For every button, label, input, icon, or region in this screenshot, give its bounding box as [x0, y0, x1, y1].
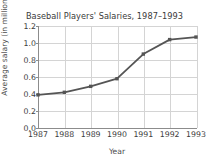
chart-title: Baseball Players' Salaries, 1987–1993 — [0, 11, 209, 21]
data-point-marker — [36, 93, 39, 96]
data-point-marker — [194, 35, 197, 38]
data-point-marker — [63, 91, 66, 94]
data-point-marker — [168, 38, 171, 41]
data-point-marker — [115, 77, 118, 80]
series-line-average-salary — [38, 37, 196, 95]
x-tick-label: 1988 — [54, 130, 74, 139]
data-point-marker — [89, 85, 92, 88]
x-axis-label: Year — [38, 147, 196, 156]
y-tick-label: 1.0 — [2, 39, 36, 48]
x-tick-label: 1993 — [186, 130, 206, 139]
y-tick-label: 0.4 — [2, 90, 36, 99]
x-tick-label: 1990 — [107, 130, 127, 139]
y-tick-label: 1.2 — [2, 22, 36, 31]
x-tick-label: 1992 — [160, 130, 180, 139]
x-tick-label: 1991 — [133, 130, 153, 139]
y-tick-label: 0.2 — [2, 107, 36, 116]
y-tick-label: 0.8 — [2, 56, 36, 65]
x-tick-label: 1987 — [28, 130, 48, 139]
data-point-marker — [142, 52, 145, 55]
gridline-vertical — [197, 26, 198, 128]
y-axis-ticks: 0.00.20.40.60.81.01.2 — [0, 26, 36, 128]
x-tick-label: 1989 — [81, 130, 101, 139]
y-tick-label: 0.6 — [2, 73, 36, 82]
data-series-layer — [38, 26, 196, 128]
line-chart: Baseball Players' Salaries, 1987–1993 Av… — [0, 0, 209, 165]
series-markers — [36, 35, 197, 96]
